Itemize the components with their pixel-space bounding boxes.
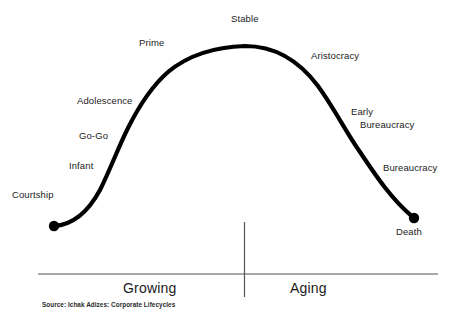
- stage-label-death: Death: [396, 226, 422, 237]
- stage-label-bureaucracy: Bureaucracy: [383, 162, 437, 173]
- curve-end-dot: [409, 213, 419, 223]
- stage-label-courtship: Courtship: [12, 189, 54, 200]
- stage-label-aristocracy: Aristocracy: [311, 50, 359, 61]
- phase-label-aging: Aging: [290, 280, 327, 297]
- phase-label-growing: Growing: [123, 280, 177, 297]
- stage-label-early-bureaucracy: Bureaucracy: [360, 119, 414, 130]
- stage-label-go-go: Go-Go: [79, 130, 108, 141]
- curve-start-dot: [49, 221, 59, 231]
- stage-label-stable: Stable: [231, 13, 259, 24]
- lifecycle-diagram: Courtship Infant Go-Go Adolescence Prime…: [0, 0, 466, 319]
- source-note: Source: Ichak Adizes: Corporate Lifecycl…: [42, 301, 175, 309]
- stage-label-prime: Prime: [139, 37, 164, 48]
- stage-label-infant: Infant: [69, 160, 93, 171]
- stage-label-early: Early: [351, 106, 373, 117]
- stage-label-adolescence: Adolescence: [77, 95, 133, 106]
